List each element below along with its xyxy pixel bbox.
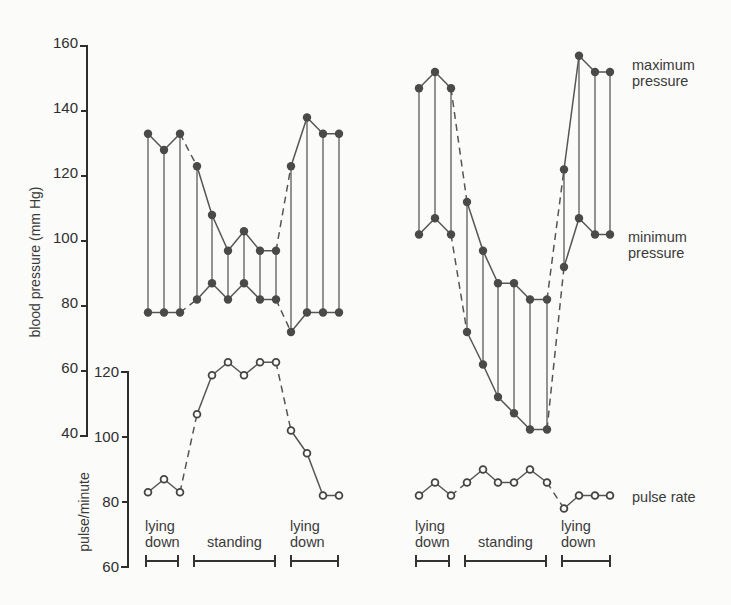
max-pressure-segment [291,118,307,167]
min-pressure-point [447,230,455,238]
pulse-rate-point [161,476,168,483]
min-pressure-point [287,328,295,336]
min-pressure-point [272,295,280,303]
pulse-rate-point [177,489,184,496]
phase-label-lying: down [145,534,180,550]
pulse-rate-point [544,479,551,486]
phase-label-lying: down [415,534,450,550]
phase-label-lying: lying [561,518,591,534]
max-pressure-point [463,198,471,206]
pulse-rate-point [607,492,614,499]
min-pressure-point [224,295,232,303]
min-pressure-point [510,409,518,417]
pulse-rate-point [288,427,295,434]
max-pressure-point [479,247,487,255]
max-pressure-segment [180,134,197,167]
min-pressure-point [303,308,311,316]
pulse-rate-point [561,505,568,512]
min-pressure-point [415,230,423,238]
max-pressure-segment [451,88,467,202]
pulse-rate-point [576,492,583,499]
bp-axis-title: blood pressure (mm Hg) [27,187,43,338]
blood-pressure-pulse-chart: 160140120100806040blood pressure (mm Hg)… [0,0,731,605]
pulse-rate-point [432,479,439,486]
max-pressure-point [144,130,152,138]
min-pressure-point [208,279,216,287]
min-pressure-point [526,425,534,433]
pulse-tick-label: 60 [102,558,119,575]
pulse-tick-label: 120 [94,363,119,380]
min-pressure-point [479,360,487,368]
phase-bracket [416,555,449,567]
max-pressure-segment [547,170,564,300]
max-pressure-segment [483,251,498,284]
pulse-rate-point [448,492,455,499]
max-pressure-point [240,227,248,235]
min-pressure-point [431,214,439,222]
min-pressure-segment [467,332,483,365]
max-pressure-point [256,247,264,255]
min-pressure-segment [547,267,564,430]
max-pressure-segment [276,166,291,251]
max-pressure-point [303,113,311,121]
max-pressure-point [287,162,295,170]
max-pressure-point [160,146,168,154]
bp-tick-label: 80 [61,294,78,311]
pulse-rate-point [320,492,327,499]
max-pressure-point [591,68,599,76]
pulse-rate-point [336,492,343,499]
phase-bracket [146,555,178,567]
pulse-rate-point [273,359,280,366]
max-pressure-point [319,130,327,138]
max-pressure-segment [564,56,579,170]
max-pressure-point [606,68,614,76]
bp-tick-label: 160 [53,34,78,51]
bp-tick-label: 140 [53,99,78,116]
bp-tick-label: 120 [53,164,78,181]
pulse-rate-segment [307,453,323,495]
pulse-rate-point [209,372,216,379]
pulse-rate-point [480,466,487,473]
bp-tick-label: 40 [61,424,78,441]
phase-bracket [562,555,610,567]
pulse-rate-point [241,372,248,379]
max-pressure-point [526,295,534,303]
phase-label-standing: standing [207,534,262,550]
pulse-rate-point [511,479,518,486]
max-pressure-point [431,68,439,76]
min-pressure-point [606,230,614,238]
pulse-rate-point [304,450,311,457]
min-pressure-point [494,393,502,401]
min-pressure-point [319,308,327,316]
pulse-rate-point [495,479,502,486]
pulse-rate-segment [547,483,564,509]
legend-maximum-pressure: pressure [632,73,688,89]
legend-minimum-pressure: pressure [628,245,684,261]
max-pressure-point [193,162,201,170]
max-pressure-point [575,52,583,60]
legend-minimum-pressure: minimum [628,229,687,245]
max-pressure-point [494,279,502,287]
min-pressure-point [160,308,168,316]
pulse-rate-segment [276,362,291,430]
min-pressure-point [463,328,471,336]
max-pressure-point [272,247,280,255]
pulse-axis-line [121,372,128,567]
max-pressure-point [560,165,568,173]
max-pressure-segment [197,166,212,215]
pulse-rate-segment [180,414,197,492]
min-pressure-point [240,279,248,287]
phase-label-lying: lying [290,518,320,534]
min-pressure-segment [276,300,291,333]
min-pressure-point [335,308,343,316]
max-pressure-point [208,211,216,219]
min-pressure-point [543,425,551,433]
min-pressure-segment [451,235,467,333]
min-pressure-point [575,214,583,222]
min-pressure-point [144,308,152,316]
pulse-axis-title: pulse/minute [76,472,92,552]
pulse-rate-segment [197,375,212,414]
bp-tick-label: 100 [53,229,78,246]
max-pressure-point [335,130,343,138]
max-pressure-point [415,84,423,92]
